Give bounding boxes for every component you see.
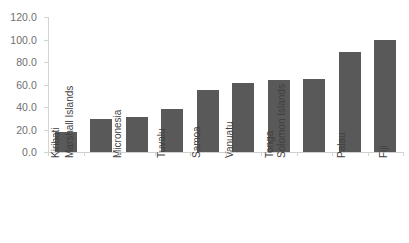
x-axis-category-label: Tonga [265,131,275,158]
y-axis-tick-labels: 120.0100.080.060.040.020.00.0 [0,0,44,243]
bar[interactable] [303,79,325,152]
x-axis-category-label-slot: Fiji [368,158,404,243]
x-axis-category-label: Micronesia [113,110,123,158]
x-axis-category-label-slot: Vanuatu [226,158,262,243]
x-axis-category-label-slot: Tonga [261,158,297,243]
y-axis-tick-label: 0.0 [22,147,37,158]
bar-slot [119,17,155,152]
x-axis-category-label: Solomon Islands [277,84,287,158]
x-axis-category-label: Tuvalu [157,128,167,158]
x-axis-category-label-slot: Palau [332,158,368,243]
x-axis-tick-mark [226,152,227,156]
bar-slot [297,17,333,152]
x-axis-category-label-slot: Tuvalu [155,158,191,243]
x-axis-category-label: Marshall Islands [65,86,75,158]
x-axis-tick-mark [155,152,156,156]
x-axis-category-label-slot: Marshall Islands [84,158,120,243]
bar[interactable] [90,119,112,152]
y-axis-tick-label: 60.0 [16,79,37,90]
x-axis-category-label: Kiribati [50,127,60,158]
x-axis-tick-mark [190,152,191,156]
y-axis-tick-label: 20.0 [16,124,37,135]
y-axis-tick-label: 40.0 [16,102,37,113]
x-axis-category-label-slot: Samoa [190,158,226,243]
y-axis-tick-label: 80.0 [16,57,37,68]
y-axis-tick-label: 100.0 [10,34,37,45]
x-axis-category-label-slot: Solomon Islands [297,158,333,243]
bar-chart: 120.0100.080.060.040.020.00.0 KiribatiMa… [0,0,409,243]
x-axis-tick-mark [119,152,120,156]
x-axis-tick-mark [297,152,298,156]
x-axis-tick-mark [48,152,49,156]
bar-slot [368,17,404,152]
bar[interactable] [374,40,396,153]
x-axis-category-label-slot: Kiribati [48,158,84,243]
x-axis-category-label: Palau [337,132,347,158]
x-axis-tick-mark [261,152,262,156]
x-axis-tick-mark [84,152,85,156]
x-axis-category-labels: KiribatiMarshall IslandsMicronesiaTuvalu… [48,158,403,243]
x-axis-tick-mark [332,152,333,156]
y-axis-tick-label: 120.0 [10,12,37,23]
bar[interactable] [232,83,254,152]
x-axis-tick-mark [403,152,404,156]
x-axis-category-label-slot: Micronesia [119,158,155,243]
bar[interactable] [126,117,148,152]
x-axis-category-label: Samoa [192,126,202,158]
x-axis-tick-mark [368,152,369,156]
x-axis-category-label: Fiji [379,145,389,158]
